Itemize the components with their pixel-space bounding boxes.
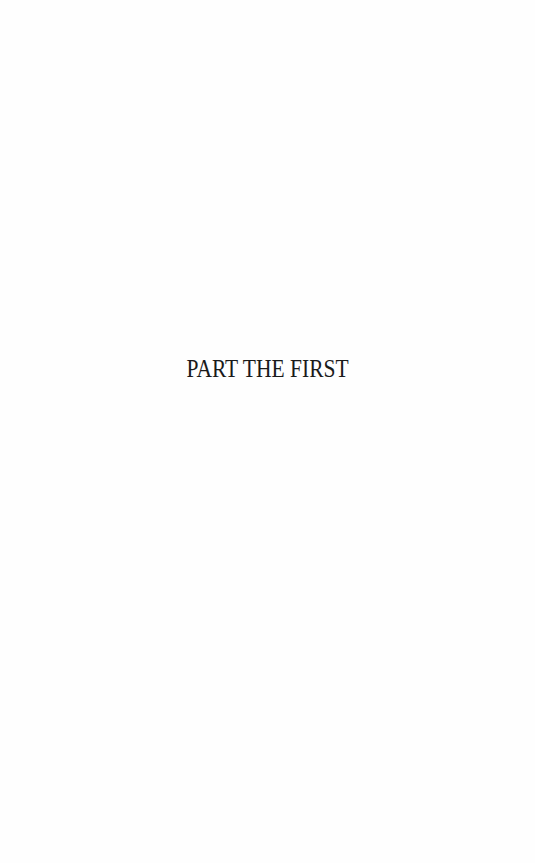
part-heading: PART THE FIRST [38,355,498,383]
book-page: PART THE FIRST [0,0,535,863]
